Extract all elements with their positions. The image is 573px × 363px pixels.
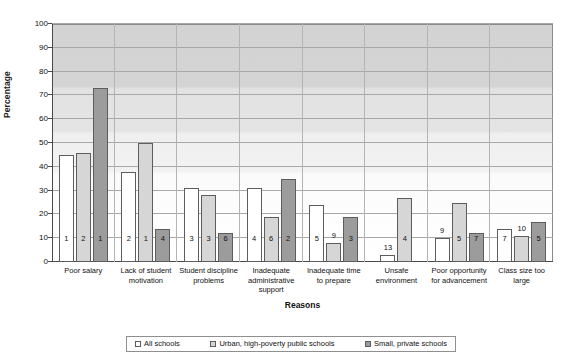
bar: 7 [497, 229, 512, 262]
chart-legend: All schoolsUrban, high-poverty public sc… [126, 336, 456, 352]
bar-rank-label: 7 [470, 235, 483, 243]
bar: 9 [326, 243, 341, 262]
bar: 2 [76, 153, 91, 262]
bar: 13 [380, 255, 395, 262]
bar-rank-label: 2 [282, 235, 295, 243]
bar-rank-label: 1 [94, 235, 107, 243]
bar: 3 [184, 188, 199, 262]
bar-rank-label: 6 [219, 235, 232, 243]
bar-rank-label: 5 [453, 235, 466, 243]
bar: 5 [531, 222, 546, 262]
y-axis-tick-label: 30 [8, 187, 48, 195]
legend-label: All schools [144, 340, 180, 348]
bar: 1 [138, 143, 153, 262]
y-axis-tick-label: 20 [8, 210, 48, 218]
y-axis-tick-label: 60 [8, 115, 48, 123]
bar: 3 [343, 217, 358, 262]
bar-rank-label: 7 [498, 235, 511, 243]
y-axis-title: Percentage [2, 0, 12, 118]
bar-groups: 1212143364625931349577105 [52, 24, 553, 262]
bar: 9 [435, 238, 450, 262]
bar-rank-label: 2 [122, 235, 135, 243]
bar: 6 [218, 233, 233, 262]
bar: 2 [281, 179, 296, 262]
legend-swatch-icon [365, 341, 371, 347]
bar-rank-label: 9 [436, 227, 449, 235]
bar-rank-label: 3 [344, 235, 357, 243]
bar-rank-label: 4 [248, 235, 261, 243]
y-axis-tick-label: 100 [8, 20, 48, 28]
bar: 6 [264, 217, 279, 262]
bar-group: 134 [365, 24, 428, 262]
y-axis-tick-label: 50 [8, 139, 48, 147]
bar: 2 [121, 172, 136, 262]
bar-rank-label: 5 [532, 235, 545, 243]
bar-group: 593 [303, 24, 366, 262]
y-axis-tick-label: 40 [8, 163, 48, 171]
bar-group: 214 [115, 24, 178, 262]
legend-label: Small, private schools [374, 340, 447, 348]
legend-item[interactable]: All schools [135, 340, 180, 348]
bar: 3 [201, 195, 216, 262]
bar-rank-label: 1 [139, 235, 152, 243]
bar-rank-label: 2 [77, 235, 90, 243]
bar: 7 [469, 233, 484, 262]
bar-group: 7105 [490, 24, 553, 262]
bar-rank-label: 4 [398, 235, 411, 243]
legend-item[interactable]: Urban, high-poverty public schools [210, 340, 334, 348]
bar-rank-label: 1 [60, 235, 73, 243]
bar-chart: Percentage 0102030405060708090100 121214… [0, 0, 573, 363]
bar-rank-label: 3 [185, 235, 198, 243]
bar: 4 [397, 198, 412, 262]
y-axis-tick-label: 80 [8, 68, 48, 76]
bar: 4 [155, 229, 170, 262]
bar: 5 [309, 205, 324, 262]
legend-item[interactable]: Small, private schools [365, 340, 447, 348]
bar-rank-label: 10 [515, 225, 528, 233]
bar: 10 [514, 236, 529, 262]
y-axis-tick-label: 10 [8, 234, 48, 242]
legend-label: Urban, high-poverty public schools [219, 340, 334, 348]
bar: 1 [93, 88, 108, 262]
x-axis-title: Reasons [52, 300, 553, 310]
y-axis-tick-label: 0 [8, 258, 48, 266]
bar-group: 462 [240, 24, 303, 262]
plot-area: 0102030405060708090100 12121433646259313… [52, 24, 553, 262]
bar-rank-label: 3 [202, 235, 215, 243]
y-axis-tick-label: 90 [8, 44, 48, 52]
y-axis-tick-label: 70 [8, 91, 48, 99]
bar-rank-label: 6 [265, 235, 278, 243]
bar: 5 [452, 203, 467, 263]
bar-group: 957 [428, 24, 491, 262]
bar-rank-label: 9 [327, 232, 340, 240]
bar-rank-label: 4 [156, 235, 169, 243]
legend-swatch-icon [210, 341, 216, 347]
bar-rank-label: 5 [310, 235, 323, 243]
bar: 4 [247, 188, 262, 262]
bar-rank-label: 13 [381, 244, 394, 252]
legend-swatch-icon [135, 341, 141, 347]
bar-group: 336 [177, 24, 240, 262]
bar-group: 121 [52, 24, 115, 262]
bar: 1 [59, 155, 74, 262]
